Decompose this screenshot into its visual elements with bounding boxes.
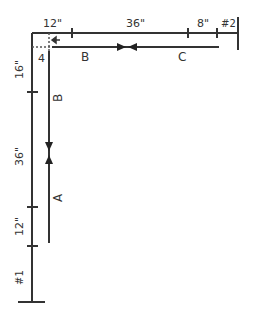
vector-b-horizontal: B bbox=[81, 50, 89, 64]
arrow-down-icon bbox=[45, 142, 53, 151]
vector-a-vertical: A bbox=[51, 193, 65, 202]
left-dim-16: 16" bbox=[13, 60, 26, 79]
top-dim-8: 8" bbox=[197, 17, 209, 30]
vector-c-horizontal: C bbox=[178, 50, 186, 64]
dimension-diagram: 12" 36" 8" #2 4 B C 16" 36" 12" #1 B A bbox=[0, 0, 253, 322]
arrow-up-icon bbox=[45, 155, 53, 164]
arrow-right-icon bbox=[117, 43, 126, 51]
corner-label-4: 4 bbox=[38, 52, 45, 65]
corner-arrow-icon bbox=[52, 37, 60, 43]
top-dim-12: 12" bbox=[43, 17, 62, 30]
top-dim-36: 36" bbox=[126, 17, 145, 30]
left-dim-36: 36" bbox=[13, 147, 26, 166]
end-label-1: #1 bbox=[14, 270, 25, 285]
end-label-2: #2 bbox=[221, 18, 236, 29]
arrow-left-icon bbox=[128, 43, 137, 51]
vector-b-vertical: B bbox=[51, 94, 65, 102]
left-dim-12: 12" bbox=[13, 217, 26, 236]
